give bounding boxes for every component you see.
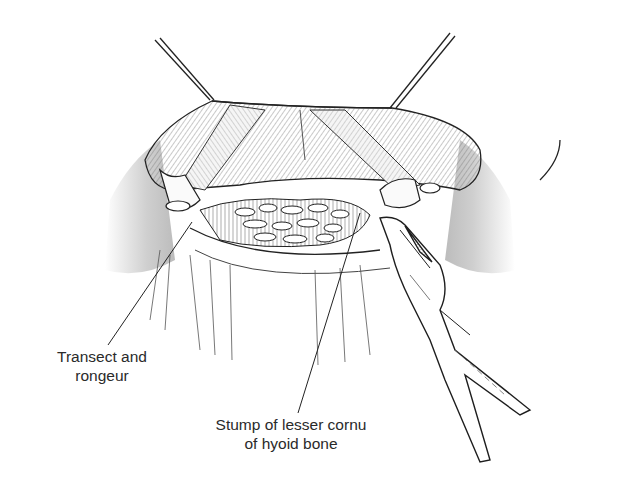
label-stump-of-lesser-cornu: Stump of lesser cornu of hyoid bone [182,415,400,453]
strap-muscles [145,101,481,190]
label-transect-and-rongeur: Transect and rongeur [32,347,172,385]
hyoid-region [190,199,390,274]
label-stump-line2: of hyoid bone [182,434,400,453]
label-transect-line2: rongeur [32,366,172,385]
label-stump-line1: Stump of lesser cornu [182,415,400,434]
lower-neck [150,250,370,365]
label-transect-line1: Transect and [32,347,172,366]
